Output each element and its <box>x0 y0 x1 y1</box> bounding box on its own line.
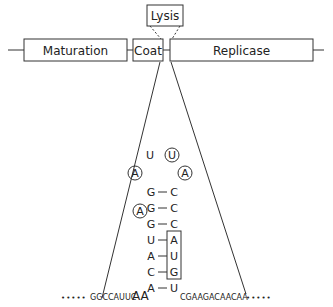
loop-base-u2: U <box>168 149 176 162</box>
svg-text:U: U <box>170 282 178 295</box>
svg-text:G: G <box>147 202 156 215</box>
lysis-connector-right <box>172 26 180 39</box>
loop-base-a-left: A <box>131 167 139 180</box>
five-prime-dots: ••••• <box>61 294 87 302</box>
five-prime-aa: AA <box>132 289 150 303</box>
svg-text:C: C <box>170 202 178 215</box>
gene-label-maturation: Maturation <box>43 44 108 58</box>
stem-pair: C G <box>147 266 178 279</box>
ms2-genome-diagram: Maturation Coat Replicase Lysis U U A A … <box>0 0 333 307</box>
svg-text:G: G <box>147 186 156 199</box>
stem-pair: A U <box>147 282 178 295</box>
gene-coat: Coat <box>133 39 163 61</box>
flanking-3prime: CGAAGACAACAA ••••• <box>180 293 272 302</box>
lysis-connector-left <box>150 26 161 39</box>
svg-text:C: C <box>147 266 155 279</box>
svg-text:A: A <box>147 250 155 263</box>
gene-label-replicase: Replicase <box>213 44 270 58</box>
flanking-5prime: ••••• GGCCAUUC AA <box>61 289 150 303</box>
three-prime-dots: ••••• <box>246 294 272 302</box>
gene-label-lysis: Lysis <box>151 9 180 23</box>
gene-maturation: Maturation <box>24 39 127 61</box>
stem-pair: G C <box>147 218 178 231</box>
gene-replicase: Replicase <box>170 39 313 61</box>
svg-text:U: U <box>147 234 155 247</box>
svg-text:U: U <box>170 250 178 263</box>
svg-text:C: C <box>170 186 178 199</box>
hairpin-stem: G C G C G C U A A U C G A <box>147 186 181 295</box>
svg-text:A: A <box>170 234 178 247</box>
gene-label-coat: Coat <box>134 44 162 58</box>
stem-pair: U A <box>147 234 178 247</box>
svg-text:G: G <box>147 218 156 231</box>
svg-text:G: G <box>170 266 179 279</box>
stem-pair: G C <box>147 202 178 215</box>
loop-base-u1: U <box>146 149 154 162</box>
svg-text:C: C <box>170 218 178 231</box>
loop-base-a-right: A <box>181 167 189 180</box>
gene-lysis: Lysis <box>147 5 183 39</box>
bulge-base-a: A <box>136 205 144 218</box>
stem-pair: A U <box>147 250 178 263</box>
stem-pair: G C <box>147 186 178 199</box>
five-prime-sequence: GGCCAUUC <box>90 293 137 302</box>
three-prime-sequence: CGAAGACAACAA <box>180 293 248 302</box>
